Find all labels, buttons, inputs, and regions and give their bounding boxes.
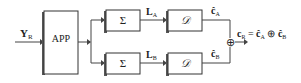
lb-label: LB xyxy=(146,49,157,61)
sum-label-a: Σ xyxy=(120,14,126,26)
app-label: APP xyxy=(52,33,71,44)
xor-symbol: ⊕ xyxy=(226,36,235,48)
block-diagram: YR APP Σ Σ LA LB 𝒟 𝒟 ĉA ĉB ⊕ cR = ĉA ⊕ ĉ… xyxy=(0,0,301,83)
la-label: LA xyxy=(146,6,158,18)
input-label: YR xyxy=(20,27,33,41)
cb-label: ĉB xyxy=(211,48,219,60)
ca-label: ĉA xyxy=(211,5,220,17)
sum-label-b: Σ xyxy=(120,57,126,69)
result-equation: cR = ĉA ⊕ ĉB xyxy=(237,28,286,40)
app-output-arrow xyxy=(87,39,91,45)
